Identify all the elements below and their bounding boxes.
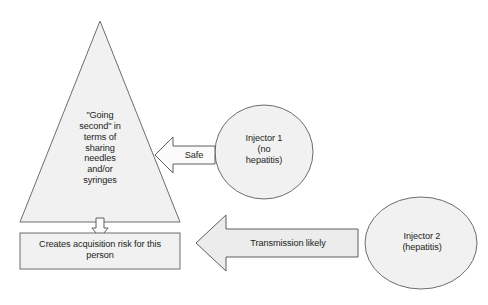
injector-two-label: Injector 2 (hepatitis) <box>382 231 462 253</box>
safe-arrow-label: Safe <box>174 150 214 161</box>
injector-one-label: Injector 1 (no hepatitis) <box>224 133 304 166</box>
transmission-arrow-label: Transmission likely <box>225 238 351 249</box>
triangle-label: "Going second" in terms of sharing needl… <box>62 110 138 186</box>
diagram-canvas: "Going second" in terms of sharing needl… <box>0 0 488 305</box>
outcome-box-label: Creates acquisition risk for this person <box>24 239 176 261</box>
